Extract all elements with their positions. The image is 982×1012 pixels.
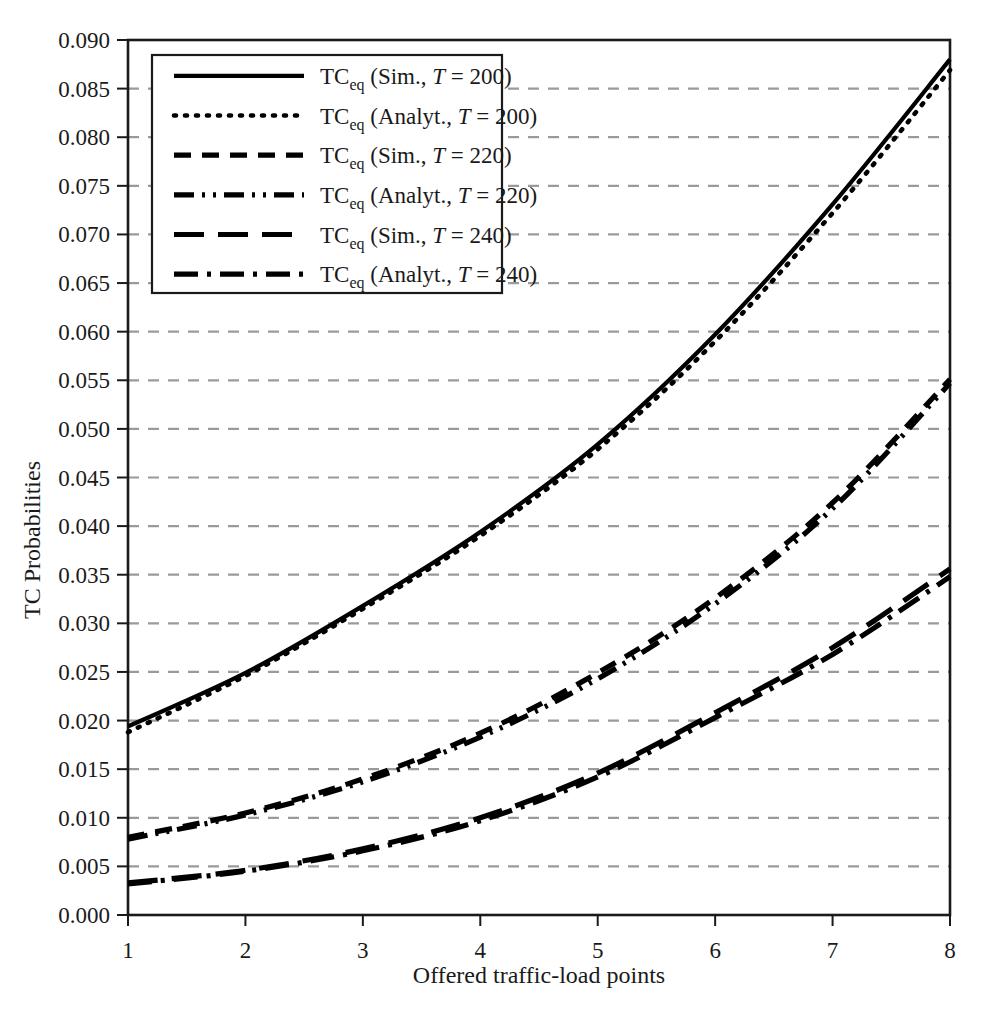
y-tick-label: 0.065 <box>58 271 110 296</box>
y-tick-label: 0.015 <box>58 757 110 782</box>
x-tick-label: 3 <box>357 938 369 963</box>
y-tick-label: 0.040 <box>58 514 110 539</box>
x-tick-label: 7 <box>827 938 839 963</box>
x-axis-title: Offered traffic-load points <box>413 962 665 988</box>
y-tick-label: 0.080 <box>58 125 110 150</box>
y-tick-label: 0.060 <box>58 320 110 345</box>
y-axis-title: TC Probabilities <box>19 461 45 619</box>
y-tick-label: 0.075 <box>58 174 110 199</box>
y-tick-label: 0.010 <box>58 806 110 831</box>
y-tick-label: 0.090 <box>58 28 110 53</box>
y-tick-label: 0.055 <box>58 368 110 393</box>
y-tick-label: 0.085 <box>58 77 110 102</box>
x-tick-label: 8 <box>944 938 956 963</box>
x-tick-label: 4 <box>475 938 487 963</box>
y-tick-label: 0.070 <box>58 222 110 247</box>
chart-legend: TCeq (Sim., T = 200)TCeq (Analyt., T = 2… <box>152 55 537 293</box>
x-tick-label: 5 <box>592 938 604 963</box>
x-tick-label: 1 <box>122 938 134 963</box>
y-tick-label: 0.000 <box>58 903 110 928</box>
x-tick-label: 2 <box>240 938 252 963</box>
y-tick-label: 0.045 <box>58 466 110 491</box>
y-tick-label: 0.035 <box>58 563 110 588</box>
y-tick-label: 0.030 <box>58 611 110 636</box>
y-tick-label: 0.025 <box>58 660 110 685</box>
y-tick-label: 0.005 <box>58 854 110 879</box>
legend-box <box>152 55 502 293</box>
y-tick-label: 0.050 <box>58 417 110 442</box>
figure-container: 0.0000.0050.0100.0150.0200.0250.0300.035… <box>0 0 982 1012</box>
y-tick-label: 0.020 <box>58 709 110 734</box>
chart-canvas: 0.0000.0050.0100.0150.0200.0250.0300.035… <box>0 0 982 1012</box>
x-tick-label: 6 <box>709 938 721 963</box>
